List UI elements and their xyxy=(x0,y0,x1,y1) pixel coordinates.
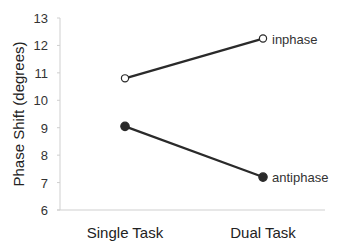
y-tick-label: 7 xyxy=(41,176,48,191)
series-antiphase: antiphase xyxy=(121,122,329,185)
y-tick-label: 6 xyxy=(41,203,48,218)
series-group: inphaseantiphase xyxy=(121,32,329,186)
y-tick-label: 11 xyxy=(35,66,49,81)
x-category-label: Dual Task xyxy=(230,224,296,241)
filled-circle-marker xyxy=(259,173,267,181)
filled-circle-marker xyxy=(121,122,129,130)
y-axis: 678910111213 xyxy=(34,11,60,218)
y-axis-title: Phase Shift (degrees) xyxy=(10,41,27,186)
x-category-label: Single Task xyxy=(87,224,164,241)
open-circle-marker xyxy=(121,75,128,82)
series-line xyxy=(125,126,263,177)
y-tick-label: 13 xyxy=(34,11,48,26)
y-tick-label: 12 xyxy=(34,38,48,53)
series-label: inphase xyxy=(272,32,318,47)
series-inphase: inphase xyxy=(121,32,317,82)
series-line xyxy=(125,39,263,79)
series-label: antiphase xyxy=(272,170,328,185)
y-tick-label: 8 xyxy=(41,148,48,163)
open-circle-marker xyxy=(259,35,266,42)
y-tick-label: 9 xyxy=(41,121,48,136)
y-tick-label: 10 xyxy=(34,93,48,108)
x-axis: Single TaskDual Task xyxy=(57,210,325,241)
line-chart: 678910111213 Single TaskDual Task Phase … xyxy=(0,0,338,252)
